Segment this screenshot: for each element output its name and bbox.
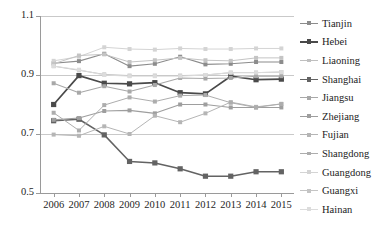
data-point	[279, 70, 283, 74]
series-shanghai	[51, 117, 284, 179]
x-tick-mark	[205, 193, 206, 197]
data-point	[153, 83, 157, 87]
plot-area	[41, 16, 294, 193]
legend-item-liaoning[interactable]: Liaoning	[300, 51, 377, 70]
legend-label: Fujian	[322, 129, 349, 140]
y-tick-mark	[36, 134, 40, 135]
data-point	[102, 109, 106, 113]
series-hebei	[51, 73, 284, 107]
data-point	[178, 94, 182, 98]
data-point	[77, 91, 81, 95]
data-point	[178, 120, 182, 124]
series-line	[54, 66, 282, 75]
y-tick-label: 0.7	[0, 128, 34, 138]
data-point	[153, 100, 157, 104]
data-point	[128, 90, 132, 94]
data-point	[51, 102, 56, 107]
legend-swatch-icon	[300, 186, 318, 195]
data-point	[203, 77, 207, 81]
series-line	[54, 105, 282, 120]
legend-item-shangdong[interactable]: Shangdong	[300, 144, 377, 163]
data-point	[52, 111, 56, 115]
data-point	[203, 62, 207, 66]
data-point	[253, 169, 258, 174]
x-tick-mark	[104, 193, 105, 197]
y-tick-mark	[36, 75, 40, 76]
data-point	[77, 59, 81, 63]
data-point	[153, 74, 157, 78]
legend-item-guangdong[interactable]: Guangdong	[300, 163, 377, 182]
x-tick-mark	[54, 193, 55, 197]
legend-item-guangxi[interactable]: Guangxi	[300, 181, 377, 200]
series-shangdong	[52, 93, 284, 132]
legend-label: Hebei	[322, 36, 347, 47]
legend-item-tianjin[interactable]: Tianjin	[300, 14, 377, 33]
data-point	[128, 95, 132, 99]
data-point	[153, 114, 157, 118]
data-point	[178, 74, 182, 78]
x-tick-mark	[281, 193, 282, 197]
series-line	[54, 54, 282, 66]
data-point	[254, 46, 258, 50]
legend-swatch-icon	[300, 93, 318, 102]
legend-label: Guangxi	[322, 185, 358, 196]
data-point	[52, 118, 56, 122]
legend-swatch-icon	[300, 168, 318, 177]
data-point	[279, 46, 283, 50]
data-point	[203, 58, 207, 62]
y-tick-label: 1.1	[0, 10, 34, 20]
data-point	[153, 62, 157, 66]
data-point	[102, 45, 106, 49]
x-tick-mark	[130, 193, 131, 197]
data-point	[52, 133, 56, 137]
data-point	[128, 47, 132, 51]
data-point	[254, 56, 258, 60]
legend-item-hebei[interactable]: Hebei	[300, 33, 377, 52]
data-point	[127, 159, 132, 164]
legend-swatch-icon	[300, 205, 318, 214]
legend-label: Shanghai	[322, 74, 361, 85]
legend-item-fujian[interactable]: Fujian	[300, 126, 377, 145]
data-point	[52, 64, 56, 68]
data-point	[102, 73, 106, 77]
data-point	[203, 47, 207, 51]
data-point	[229, 105, 233, 109]
x-tick-mark	[79, 193, 80, 197]
data-point	[77, 68, 81, 72]
legend-swatch-icon	[300, 56, 318, 65]
legend-label: Liaoning	[322, 55, 360, 66]
series-line	[54, 119, 282, 176]
data-point	[254, 74, 258, 78]
data-point	[279, 102, 283, 106]
data-point	[127, 81, 132, 86]
data-point	[254, 105, 258, 109]
data-point	[178, 46, 182, 50]
data-point	[76, 73, 81, 78]
legend-item-hainan[interactable]: Hainan	[300, 200, 377, 219]
data-point	[178, 56, 182, 60]
legend-item-jiangsu[interactable]: Jiangsu	[300, 88, 377, 107]
data-point	[102, 132, 107, 137]
data-point	[128, 60, 132, 64]
legend-swatch-icon	[300, 19, 318, 28]
data-point	[128, 64, 132, 68]
data-point	[279, 74, 283, 78]
data-point	[102, 124, 106, 128]
legend-swatch-icon	[300, 37, 318, 46]
legend-label: Tianjin	[322, 18, 352, 29]
data-point	[128, 108, 132, 112]
data-point	[77, 54, 81, 58]
data-point	[229, 101, 233, 105]
x-tick-mark	[180, 193, 181, 197]
data-point	[229, 76, 233, 80]
legend-item-zhejiang[interactable]: Zhejiang	[300, 107, 377, 126]
series-hainan	[52, 64, 284, 78]
data-point	[128, 132, 132, 136]
legend-label: Shangdong	[322, 148, 369, 159]
y-tick-label: 0.9	[0, 69, 34, 79]
legend-item-shanghai[interactable]: Shanghai	[300, 70, 377, 89]
data-point	[203, 103, 207, 107]
y-tick-mark	[36, 16, 40, 17]
legend-label: Jiangsu	[322, 92, 354, 103]
data-point	[52, 81, 56, 85]
